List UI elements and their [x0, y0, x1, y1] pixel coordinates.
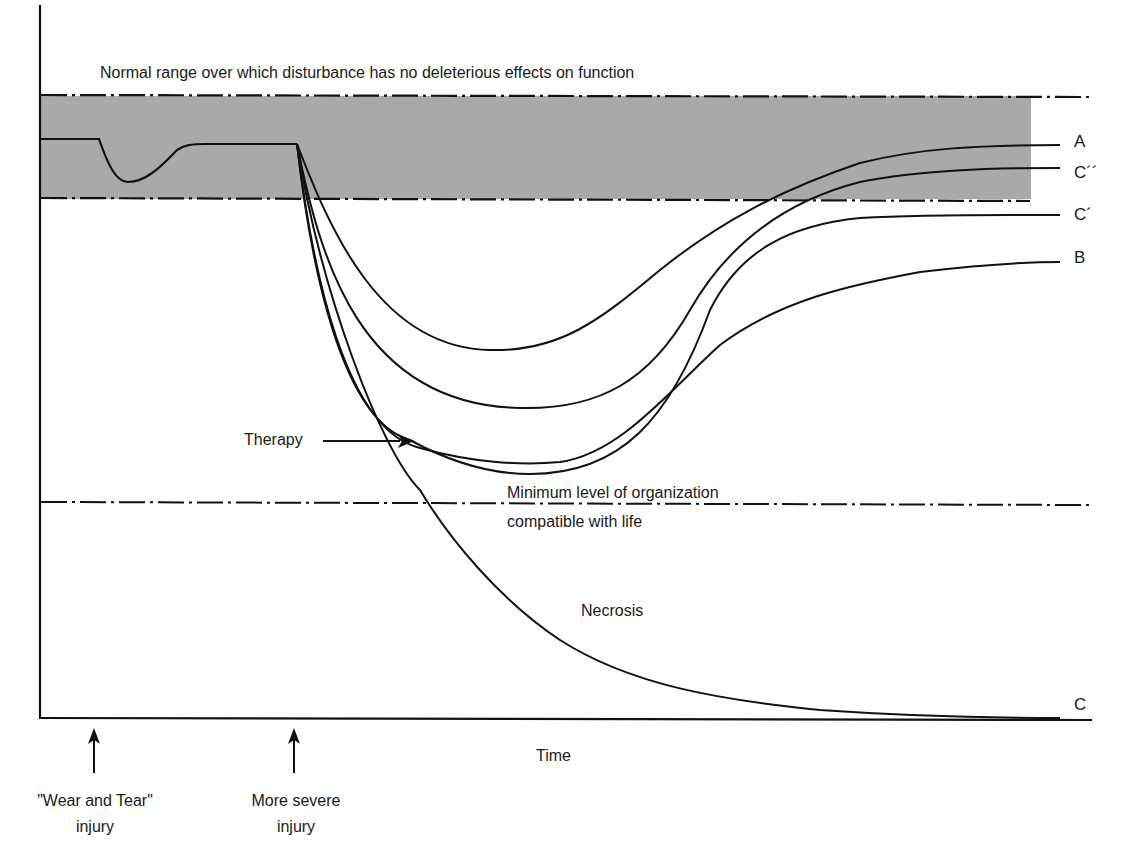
necrosis-label: Necrosis: [581, 602, 643, 620]
curve-label-C-prime: C´: [1074, 205, 1092, 225]
minimum-level-label-line2: compatible with life: [507, 513, 642, 531]
curve-label-A: A: [1074, 132, 1085, 152]
curve-label-B: B: [1074, 248, 1085, 268]
therapy-label: Therapy: [244, 431, 303, 449]
injury-response-diagram: Normal range over which disturbance has …: [0, 0, 1123, 852]
normal-range-title: Normal range over which disturbance has …: [100, 64, 634, 82]
curve-C-necrosis: [297, 144, 1060, 718]
wear-tear-caption-line1: "Wear and Tear": [5, 788, 185, 814]
severe-injury-caption: More severe injury: [206, 788, 386, 840]
minimum-level-label-line1: Minimum level of organization: [507, 484, 719, 502]
curve-label-C-double-prime: C´´: [1074, 163, 1098, 183]
wear-tear-caption: "Wear and Tear" injury: [5, 788, 185, 840]
x-axis: [39, 718, 1092, 720]
diagram-canvas: [0, 0, 1123, 852]
severe-injury-caption-line2: injury: [206, 814, 386, 840]
severe-injury-caption-line1: More severe: [206, 788, 386, 814]
normal-range-band: [41, 96, 1031, 199]
wear-tear-caption-line2: injury: [5, 814, 185, 840]
curve-label-C: C: [1074, 695, 1086, 715]
minimum-level-line: [41, 502, 1090, 505]
x-axis-label: Time: [536, 747, 571, 765]
